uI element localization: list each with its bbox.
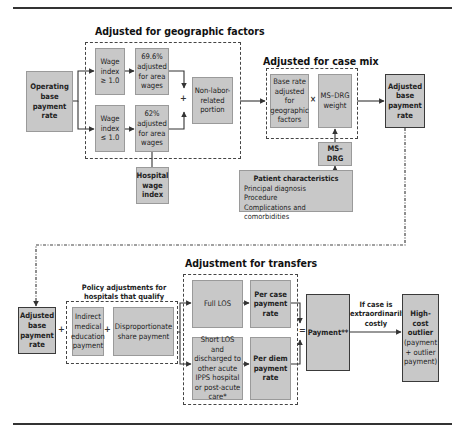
outlier-condition: If case is extraordinarily costly bbox=[350, 300, 402, 328]
indirect-medical-education: Indirect medical education payment bbox=[72, 307, 104, 356]
patient-item: Procedure bbox=[244, 193, 348, 203]
short-los-transfer: Short LOS and discharged to other acute … bbox=[192, 337, 243, 400]
disproportionate-share-payment: Disproportionate share payment bbox=[113, 307, 174, 356]
adjusted-low-portion: 62% adjusted for area wages bbox=[135, 105, 169, 152]
plus-sign: + bbox=[58, 324, 65, 334]
policy-title: Policy adjustments for hospitals that qu… bbox=[78, 283, 170, 302]
per-diem-payment-rate: Per diem payment rate bbox=[250, 337, 291, 400]
plus-sign: + bbox=[180, 93, 187, 103]
non-labor-related-portion: Non-labor-related portion bbox=[192, 77, 233, 124]
equals-sign: = bbox=[299, 325, 306, 335]
operating-base-payment-rate: Operating base payment rate bbox=[26, 71, 73, 132]
plus-sign: + bbox=[104, 324, 111, 334]
per-case-payment-rate: Per case payment rate bbox=[250, 280, 291, 328]
patient-characteristics-heading: Patient characteristics bbox=[244, 174, 348, 184]
adjusted-high-portion: 69.6% adjusted for area wages bbox=[135, 48, 169, 95]
ms-drg: MS–DRG bbox=[318, 142, 352, 166]
adjusted-base-payment-rate-top: Adjusted base payment rate bbox=[385, 74, 425, 128]
high-cost-outlier-label: High-cost outlier bbox=[404, 309, 437, 338]
case-mix-title: Adjusted for case mix bbox=[263, 55, 379, 67]
times-sign: × bbox=[310, 95, 316, 104]
patient-item: Principal diagnosis bbox=[244, 184, 348, 194]
transfers-title: Adjustment for transfers bbox=[185, 257, 317, 269]
wage-index-low: Wage index ≤ 1.0 bbox=[95, 105, 125, 152]
base-rate-adjusted: Base rate adjusted for geographic factor… bbox=[270, 74, 309, 128]
full-los: Full LOS bbox=[192, 280, 243, 328]
ms-drg-weight: MS–DRG weight bbox=[318, 74, 352, 128]
adjusted-base-payment-rate-bottom: Adjusted base payment rate bbox=[18, 307, 56, 354]
payment: Payment** bbox=[306, 294, 350, 371]
high-cost-outlier-detail: (payment + outlier payment) bbox=[404, 338, 437, 367]
high-cost-outlier: High-cost outlier (payment + outlier pay… bbox=[402, 294, 439, 382]
patient-item: Complications and comorbidities bbox=[244, 203, 348, 222]
wage-index-high: Wage index ≥ 1.0 bbox=[95, 48, 125, 95]
patient-characteristics: Patient characteristics Principal diagno… bbox=[239, 170, 353, 212]
geographic-title: Adjusted for geographic factors bbox=[95, 25, 265, 37]
hospital-wage-index: Hospital wage index bbox=[136, 167, 169, 204]
